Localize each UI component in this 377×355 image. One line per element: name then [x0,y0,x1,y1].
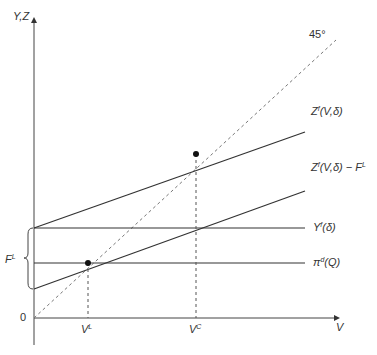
origin-label: 0 [20,312,26,323]
zf-minus-fl-line [34,191,305,289]
vl-label: VL [81,324,92,335]
fl-brace-label: FL [5,254,16,265]
point-vl [85,260,91,266]
45-degree-label: 45° [309,29,326,40]
zf-label: Zf(V,δ) [311,106,343,117]
diagram-canvas [0,0,377,355]
zf-line [34,132,305,228]
yf-label: Yf(δ) [313,222,336,233]
zf-minus-fl-label: Zf(V,δ) − FL [311,162,366,173]
pid-label: πd(Q) [313,257,340,268]
point-vc [193,151,199,157]
fl-brace [24,228,33,289]
y-axis-label: Y,Z [13,11,29,22]
x-axis-label: V [336,322,343,333]
45-degree-line [34,40,336,318]
vc-label: VC [189,324,201,335]
